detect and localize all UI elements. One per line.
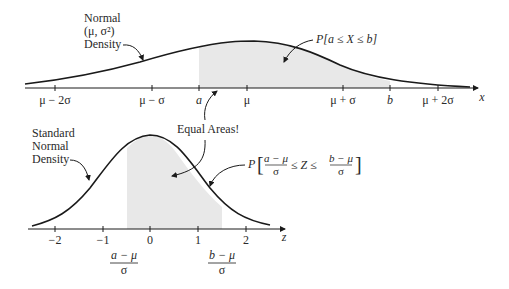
top-probability-label: P[a ≤ X ≤ b] [315, 32, 378, 46]
frac-b-numerator: b − μ [209, 248, 235, 262]
diagram-svg: μ − 2σ μ − σ a μ μ + σ b μ + 2σ x Normal… [0, 0, 509, 289]
prob-frac2-den: σ [338, 165, 344, 177]
tick-neg2: −2 [49, 233, 62, 247]
bottom-label-line1: Standard [32, 126, 75, 140]
tick-mu-plus-2sigma: μ + 2σ [422, 93, 454, 107]
prob-prefix: P [247, 157, 256, 171]
right-bracket: ] [355, 153, 362, 175]
bottom-probability-arrow [210, 165, 245, 186]
frac-a-denominator: σ [121, 263, 128, 277]
frac-a-numerator: a − μ [111, 248, 137, 262]
frac-b-denominator: σ [219, 263, 226, 277]
tick-2: 2 [243, 233, 249, 247]
tick-mu-minus-sigma: μ − σ [139, 93, 165, 107]
tick-1: 1 [195, 233, 201, 247]
left-bracket: [ [257, 153, 264, 175]
bottom-label-line3: Density [32, 152, 69, 166]
top-label-line1: Normal [84, 11, 121, 25]
top-axis-variable: x [478, 90, 485, 104]
bottom-shaded-area [127, 135, 222, 229]
bottom-axis-variable: z [281, 230, 287, 244]
prob-frac2-num: b − μ [329, 152, 353, 164]
equal-areas-label: Equal Areas! [177, 122, 239, 136]
prob-mid: ≤ Z ≤ [291, 158, 317, 172]
top-label-line3: Density [84, 37, 121, 51]
tick-b: b [387, 93, 393, 107]
equal-areas-arrow-top [205, 91, 217, 120]
normal-standardization-diagram: μ − 2σ μ − σ a μ μ + σ b μ + 2σ x Normal… [0, 0, 509, 289]
bottom-probability-label: P [ a − μ σ ≤ Z ≤ b − μ σ ] [247, 152, 362, 177]
tick-a: a [196, 93, 202, 107]
bottom-label-line2: Normal [32, 139, 69, 153]
prob-frac1-num: a − μ [264, 152, 288, 164]
tick-mu-plus-sigma: μ + σ [330, 93, 356, 107]
top-label-line2: (μ, σ²) [84, 24, 115, 38]
bottom-label-arrow [70, 160, 89, 180]
tick-mu: μ [244, 93, 250, 107]
top-label-arrow [123, 45, 143, 60]
tick-0: 0 [147, 233, 153, 247]
prob-frac1-den: σ [273, 165, 279, 177]
tick-neg1: −1 [97, 233, 110, 247]
tick-mu-minus-2sigma: μ − 2σ [39, 93, 71, 107]
